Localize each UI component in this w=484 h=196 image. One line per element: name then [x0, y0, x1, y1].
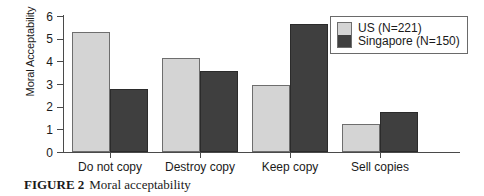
legend-label-singapore: Singapore (N=150): [358, 35, 460, 48]
x-axis-tick: [200, 152, 201, 158]
x-axis-tick: [380, 152, 381, 158]
x-axis-label: Keep copy: [262, 161, 319, 174]
y-axis-tick: 3: [57, 84, 63, 85]
figure-container: Moral Acceptability 0123456 Do not copyD…: [0, 0, 484, 196]
y-axis-tick: 0: [57, 152, 63, 153]
legend-label-group: US (N=221) Singapore (N=150): [358, 22, 460, 48]
bar-us: [252, 85, 290, 152]
y-axis-tick-label: 3: [46, 79, 53, 91]
legend-swatch-group: [337, 22, 352, 48]
bar-singapore: [110, 89, 148, 152]
x-axis-tick: [110, 152, 111, 158]
y-axis-tick: 1: [57, 129, 63, 130]
y-axis-tick-label: 6: [46, 11, 53, 23]
y-axis-tick: 2: [57, 107, 63, 108]
y-axis-tick-label: 1: [46, 124, 53, 136]
bar-us: [72, 32, 110, 152]
y-axis-tick: 5: [57, 39, 63, 40]
legend: US (N=221) Singapore (N=150): [330, 16, 468, 54]
x-axis-label: Sell copies: [351, 161, 409, 174]
figure-caption: FIGURE 2Moral acceptability: [24, 178, 191, 192]
bar-singapore: [290, 24, 328, 152]
bar-us: [342, 124, 380, 152]
y-axis-tick-label: 5: [46, 33, 53, 45]
x-axis-label: Destroy copy: [165, 161, 235, 174]
bar-singapore: [380, 112, 418, 152]
y-axis-tick-label: 0: [46, 147, 53, 159]
y-axis-tick-label: 2: [46, 101, 53, 113]
legend-swatch-singapore: [338, 35, 351, 47]
x-axis-line: [63, 152, 460, 153]
bar-us: [162, 58, 200, 152]
figure-caption-label: FIGURE 2: [24, 177, 84, 192]
y-axis-tick: 6: [57, 16, 63, 17]
y-axis-tick-label: 4: [46, 56, 53, 68]
legend-swatch-us: [338, 23, 351, 35]
y-axis-title: Moral Acceptability: [25, 0, 36, 112]
x-axis-tick: [290, 152, 291, 158]
bar-singapore: [200, 71, 238, 152]
y-axis-tick: 4: [57, 61, 63, 62]
figure-caption-text: Moral acceptability: [89, 177, 190, 192]
x-axis-label: Do not copy: [78, 161, 142, 174]
